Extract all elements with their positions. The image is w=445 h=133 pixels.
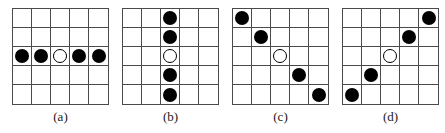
grid-cell xyxy=(362,28,381,47)
grid-cell xyxy=(32,47,51,66)
grid-cell xyxy=(51,85,70,104)
grid-cell xyxy=(70,28,89,47)
grid-cell xyxy=(252,28,271,47)
grid-cell xyxy=(362,9,381,28)
grid-cell xyxy=(161,28,180,47)
grid-cell xyxy=(199,28,218,47)
open-dot xyxy=(53,49,67,63)
grid-cell xyxy=(343,9,362,28)
grid-cell xyxy=(199,47,218,66)
grid-cell xyxy=(419,66,438,85)
grid-cell xyxy=(381,28,400,47)
filled-dot xyxy=(34,49,48,63)
grid-cell xyxy=(252,9,271,28)
grid-cell xyxy=(233,9,252,28)
grid-cell xyxy=(123,85,142,104)
grid-cell xyxy=(290,28,309,47)
grid-cell xyxy=(381,47,400,66)
panel-label: (d) xyxy=(383,110,398,123)
grid-cell xyxy=(252,47,271,66)
grid-cell xyxy=(89,66,108,85)
grid-cell xyxy=(271,85,290,104)
grid-cell xyxy=(419,28,438,47)
panel-d: (d) xyxy=(342,8,439,123)
grid-cell xyxy=(161,47,180,66)
grid-cell xyxy=(381,66,400,85)
grid-cell xyxy=(309,85,328,104)
panel-label: (a) xyxy=(53,110,67,123)
grid-cell xyxy=(13,28,32,47)
grid-cell xyxy=(199,85,218,104)
grid-cell xyxy=(51,66,70,85)
grid-b xyxy=(122,8,219,105)
filled-dot xyxy=(422,11,436,25)
filled-dot xyxy=(163,30,177,44)
grid-cell xyxy=(271,47,290,66)
grid-cell xyxy=(51,47,70,66)
open-dot xyxy=(383,49,397,63)
grid-cell xyxy=(362,85,381,104)
grid-cell xyxy=(89,85,108,104)
grid-cell xyxy=(343,28,362,47)
open-dot xyxy=(163,49,177,63)
grid-cell xyxy=(123,66,142,85)
panel-a: (a) xyxy=(12,8,109,123)
grid-cell xyxy=(142,9,161,28)
grid-cell xyxy=(180,9,199,28)
grid-cell xyxy=(161,85,180,104)
grid-cell xyxy=(309,9,328,28)
grid-cell xyxy=(180,66,199,85)
grid-cell xyxy=(199,9,218,28)
grid-cell xyxy=(381,85,400,104)
grid-cell xyxy=(271,66,290,85)
grid-cell xyxy=(290,47,309,66)
filled-dot xyxy=(163,11,177,25)
grid-cell xyxy=(233,85,252,104)
grid-cell xyxy=(89,9,108,28)
grid-cell xyxy=(400,28,419,47)
grid-cell xyxy=(309,28,328,47)
filled-dot xyxy=(364,68,378,82)
grid-cell xyxy=(89,47,108,66)
grid-c xyxy=(232,8,329,105)
filled-dot xyxy=(163,88,177,102)
grid-cell xyxy=(180,28,199,47)
grid-cell xyxy=(271,28,290,47)
grid-cell xyxy=(362,66,381,85)
grid-cell xyxy=(142,85,161,104)
grid-a xyxy=(12,8,109,105)
grid-cell xyxy=(70,66,89,85)
filled-dot xyxy=(15,49,29,63)
grid-cell xyxy=(419,85,438,104)
grid-cell xyxy=(180,47,199,66)
grid-cell xyxy=(123,47,142,66)
grid-cell xyxy=(400,9,419,28)
filled-dot xyxy=(72,49,86,63)
grid-cell xyxy=(123,9,142,28)
grid-cell xyxy=(419,9,438,28)
grid-cell xyxy=(32,28,51,47)
panel-c: (c) xyxy=(232,8,329,123)
grid-cell xyxy=(70,47,89,66)
filled-dot xyxy=(402,30,416,44)
grid-cell xyxy=(32,66,51,85)
grid-cell xyxy=(400,66,419,85)
grid-cell xyxy=(252,85,271,104)
grid-cell xyxy=(271,9,290,28)
filled-dot xyxy=(163,68,177,82)
panel-b: (b) xyxy=(122,8,219,123)
panel-label: (b) xyxy=(163,110,178,123)
grid-cell xyxy=(13,9,32,28)
grid-cell xyxy=(32,85,51,104)
grid-cell xyxy=(123,28,142,47)
filled-dot xyxy=(254,30,268,44)
open-dot xyxy=(273,49,287,63)
filled-dot xyxy=(292,68,306,82)
grid-cell xyxy=(161,9,180,28)
grid-cell xyxy=(142,28,161,47)
grid-cell xyxy=(89,28,108,47)
grid-cell xyxy=(252,66,271,85)
grid-cell xyxy=(70,85,89,104)
grid-cell xyxy=(32,9,51,28)
grid-cell xyxy=(180,85,199,104)
